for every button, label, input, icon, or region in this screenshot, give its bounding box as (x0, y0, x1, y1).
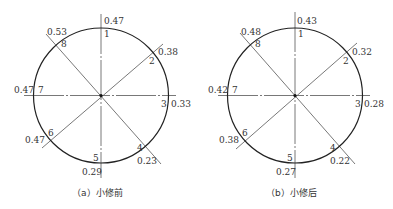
value-3: 0.33 (171, 99, 191, 109)
value-6: 0.47 (25, 135, 45, 145)
diagonal-8-4 (46, 34, 161, 164)
caption-b: （b）小修后 (266, 187, 317, 198)
label-3: 3 (355, 99, 361, 109)
label-2: 2 (343, 56, 349, 66)
label-4: 4 (330, 143, 336, 153)
label-2: 2 (149, 56, 155, 66)
label-5: 5 (287, 153, 293, 163)
label-6: 6 (48, 128, 54, 138)
value-4: 0.22 (330, 156, 350, 166)
value-4: 0.23 (137, 156, 157, 166)
diagonal-8-4 (240, 33, 355, 164)
label-8: 8 (61, 39, 67, 49)
label-3: 3 (161, 99, 167, 109)
value-3: 0.28 (364, 99, 384, 109)
figure-b: 0.43 1 0.32 2 3 0.28 4 0.22 5 0.27 6 0.3… (208, 12, 384, 198)
value-7: 0.47 (14, 85, 34, 95)
value-1: 0.47 (104, 16, 124, 26)
label-1: 1 (298, 29, 304, 39)
diagram-canvas: 0.47 1 0.38 2 3 0.33 4 0.23 5 0.29 6 0.4… (0, 0, 393, 209)
value-5: 0.27 (276, 167, 296, 177)
label-7: 7 (232, 85, 238, 95)
label-1: 1 (104, 29, 110, 39)
value-8: 0.48 (241, 27, 261, 37)
value-5: 0.29 (82, 167, 102, 177)
value-8: 0.53 (47, 27, 67, 37)
label-5: 5 (93, 153, 99, 163)
label-8: 8 (255, 39, 261, 49)
label-6: 6 (242, 128, 248, 138)
center-point (293, 94, 296, 97)
value-7: 0.42 (208, 85, 228, 95)
value-6: 0.38 (219, 135, 239, 145)
center-point (99, 94, 102, 97)
label-7: 7 (38, 85, 44, 95)
value-2: 0.38 (158, 47, 178, 57)
figure-a: 0.47 1 0.38 2 3 0.33 4 0.23 5 0.29 6 0.4… (14, 14, 191, 198)
value-1: 0.43 (297, 16, 317, 26)
label-4: 4 (137, 143, 143, 153)
value-2: 0.32 (352, 47, 372, 57)
caption-a: （a）小修前 (72, 187, 123, 198)
